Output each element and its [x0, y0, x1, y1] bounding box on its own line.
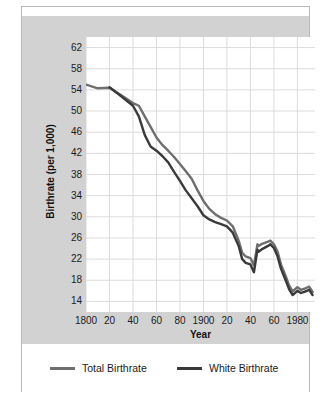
- y-axis-tick-label: 14: [56, 296, 82, 306]
- plot-area: [86, 37, 315, 312]
- series-line: [109, 87, 312, 295]
- x-axis-ticks: 18002040608019002040601980: [86, 316, 315, 330]
- y-axis-tick-label: 34: [56, 191, 82, 201]
- legend-label: White Birthrate: [209, 362, 278, 374]
- y-axis-tick-label: 22: [56, 254, 82, 264]
- series-lines: [86, 85, 313, 295]
- y-axis-tick-label: 26: [56, 233, 82, 243]
- figure-card: 62585450464238343026221814 1800204060801…: [21, 6, 310, 392]
- y-axis-tick-label: 58: [56, 64, 82, 74]
- y-axis-tick-label: 50: [56, 106, 82, 116]
- chart-panel: 62585450464238343026221814 1800204060801…: [22, 16, 309, 344]
- legend-swatch-icon: [177, 367, 202, 370]
- legend-label: Total Birthrate: [82, 362, 147, 374]
- y-axis-tick-label: 62: [56, 43, 82, 53]
- y-axis-title: Birthrate (per 1,000): [45, 82, 56, 262]
- x-axis-title: Year: [86, 329, 315, 340]
- y-axis-tick-label: 30: [56, 212, 82, 222]
- plot-svg: [86, 37, 315, 312]
- y-axis-tick-label: 54: [56, 85, 82, 95]
- legend-item-total-birthrate: Total Birthrate: [50, 361, 147, 375]
- y-axis-tick-label: 18: [56, 275, 82, 285]
- y-axis-tick-label: 38: [56, 170, 82, 180]
- y-axis-tick-label: 46: [56, 127, 82, 137]
- legend-item-white-birthrate: White Birthrate: [177, 361, 278, 375]
- y-axis-tick-label: 42: [56, 148, 82, 158]
- legend-panel: Total Birthrate White Birthrate: [22, 344, 309, 392]
- x-axis-tick-label: 1980: [277, 316, 317, 326]
- legend-swatch-icon: [50, 367, 75, 370]
